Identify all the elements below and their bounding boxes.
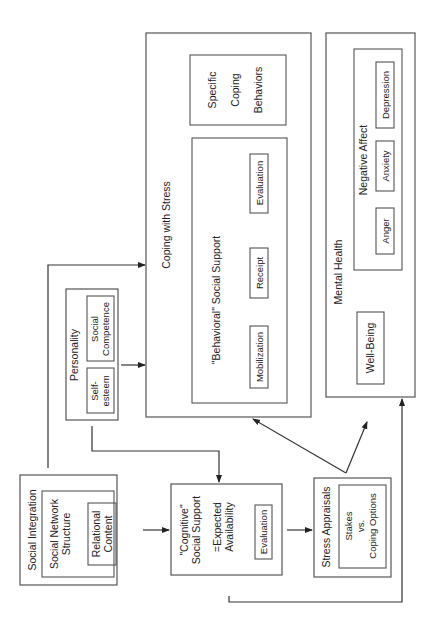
coping-title: Coping with Stress	[160, 181, 172, 269]
cognitive-support-node: "Cognitive" Social Support =Expected Ava…	[171, 484, 282, 575]
edge-personality-to-cognitive	[92, 426, 219, 482]
stakes-line2: vs.	[355, 520, 366, 532]
well-being-label: Well-Being	[364, 323, 376, 374]
mental-health-title: Mental Health	[332, 239, 344, 304]
anxiety-label: Anxiety	[380, 150, 391, 181]
specific-coping-line1: Specific	[206, 72, 218, 109]
personality-title: Personality	[68, 328, 80, 381]
specific-coping-line3: Behaviors	[252, 67, 264, 114]
personality-node: Personality Self- esteem Social Competen…	[66, 289, 118, 420]
expected-availability-line2: Availability	[223, 502, 235, 552]
diagram-canvas: Social Integration Social Network Struct…	[0, 0, 428, 631]
social-integration-node: Social Integration Social Network Struct…	[20, 475, 117, 585]
social-integration-title: Social Integration	[26, 489, 38, 570]
social-competence-line2: Competence	[100, 302, 111, 356]
coping-evaluation-label: Evaluation	[254, 161, 265, 205]
anger-label: Anger	[380, 218, 391, 243]
relational-content-line1: Relational	[90, 511, 102, 558]
coping-node: Coping with Stress Specific Coping Behav…	[146, 33, 311, 417]
social-competence-line1: Social	[89, 316, 100, 342]
social-network-structure-line2: Structure	[60, 513, 72, 556]
edge-stress-appraisals-to-mental-health	[346, 422, 367, 473]
edge-stress-appraisals-to-coping	[253, 419, 346, 473]
specific-coping-line2: Coping	[229, 73, 241, 106]
depression-label: Depression	[380, 71, 391, 119]
stress-appraisals-title: Stress Appraisals	[320, 486, 332, 567]
self-esteem-line2: esteem	[100, 375, 111, 406]
receipt-label: Receipt	[254, 257, 265, 290]
social-network-structure-line1: Social Network	[48, 498, 60, 569]
relational-content-line2: Content	[102, 516, 114, 553]
stress-appraisals-node: Stress Appraisals Stakes vs. Coping Opti…	[314, 478, 391, 577]
stakes-line1: Stakes	[343, 511, 354, 540]
cognitive-support-title-line2: Social Support	[190, 496, 202, 564]
behavioral-support-title: "Behavioral" Social Support	[210, 236, 222, 364]
stakes-line3: Coping Options	[367, 493, 378, 559]
cognitive-evaluation-label: Evaluation	[258, 510, 269, 554]
negative-affect-title: Negative Affect	[357, 125, 369, 196]
cognitive-support-title-line1: "Cognitive"	[178, 504, 190, 556]
expected-availability-line1: =Expected	[211, 502, 223, 552]
self-esteem-line1: Self-	[89, 381, 100, 401]
mental-health-node: Mental Health Well-Being Negative Affect…	[326, 33, 415, 397]
behavioral-support-box	[192, 138, 287, 403]
mobilization-label: Mobilization	[254, 332, 265, 382]
